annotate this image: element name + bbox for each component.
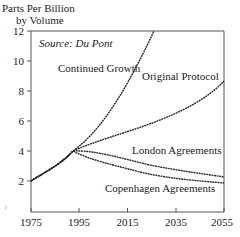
y-tick-10: 10 bbox=[13, 55, 25, 67]
stray-mark: r bbox=[5, 203, 8, 211]
label-london-agreements: London Agreements bbox=[132, 144, 222, 156]
y-tick-8: 8 bbox=[19, 85, 25, 97]
x-tick-1975: 1975 bbox=[20, 216, 43, 228]
x-tick-2055: 2055 bbox=[211, 216, 234, 228]
source-note: Source: Du Pont bbox=[39, 37, 113, 49]
series-original-protocol bbox=[31, 81, 224, 181]
chart-canvas: 2 4 6 8 10 12 1975 1995 2015 2035 2055 S… bbox=[0, 0, 240, 237]
y-tick-6: 6 bbox=[19, 115, 25, 127]
x-ticks bbox=[31, 208, 224, 212]
label-copenhagen-agreements: Copenhagen Agreements bbox=[105, 182, 215, 194]
label-continued-growth: Continued Growth bbox=[58, 62, 141, 74]
x-tick-2015: 2015 bbox=[117, 216, 140, 228]
y-tick-labels: 2 4 6 8 10 12 bbox=[13, 25, 25, 187]
y-ticks bbox=[27, 31, 31, 181]
y-tick-4: 4 bbox=[19, 145, 25, 157]
label-original-protocol: Original Protocol bbox=[142, 70, 219, 82]
y-tick-12: 12 bbox=[13, 25, 24, 37]
x-tick-2035: 2035 bbox=[165, 216, 188, 228]
x-tick-labels: 1975 1995 2015 2035 2055 bbox=[20, 216, 234, 228]
y-tick-2: 2 bbox=[19, 175, 25, 187]
x-tick-1995: 1995 bbox=[68, 216, 91, 228]
